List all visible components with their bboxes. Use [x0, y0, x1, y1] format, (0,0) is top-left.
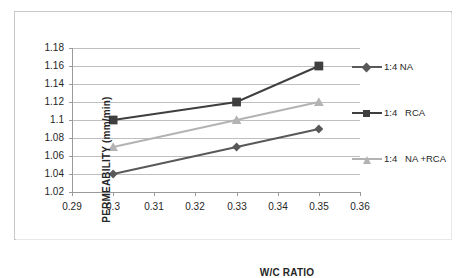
- legend-label: 1:4 NA: [382, 62, 413, 72]
- legend-item-2[interactable]: 1:4 RCA: [352, 106, 425, 120]
- chart-legend: 1:4 NA1:4 RCA1:4 NA +RCA: [352, 52, 452, 188]
- legend-square-icon: [363, 110, 370, 117]
- legend-triangle-icon: [363, 156, 371, 164]
- plot-area: W/C RATIO PERMEABILITY (mm/min): [72, 48, 360, 192]
- legend-marker-diamond-icon: [352, 61, 382, 73]
- legend-label: 1:4 RCA: [382, 108, 425, 118]
- y-axis-title: PERMEABILITY (mm/min): [101, 60, 112, 260]
- legend-diamond-icon: [362, 63, 372, 73]
- legend-label: 1:4 NA +RCA: [382, 154, 446, 164]
- legend-item-1[interactable]: 1:4 NA: [352, 60, 413, 74]
- legend-marker-triangle-icon: [352, 153, 382, 165]
- legend-item-3[interactable]: 1:4 NA +RCA: [352, 152, 446, 166]
- legend-marker-square-icon: [352, 107, 382, 119]
- x-axis-title: W/C RATIO: [207, 267, 367, 278]
